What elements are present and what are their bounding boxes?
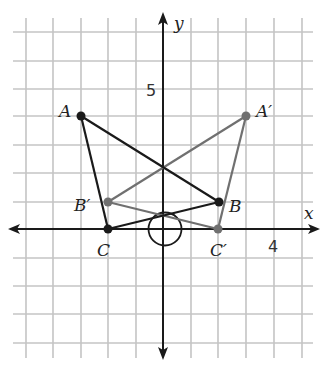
point-a-prime xyxy=(242,112,251,121)
point-c xyxy=(104,225,113,234)
point-c-prime xyxy=(214,225,223,234)
coordinate-plane-figure: y x 5 4 A B C A′ B′ C′ xyxy=(0,0,325,370)
point-a xyxy=(77,112,86,121)
x-tick-label-4: 4 xyxy=(268,237,278,256)
point-b xyxy=(215,198,224,207)
y-axis-label: y xyxy=(173,13,184,33)
label-c-prime: C′ xyxy=(210,240,227,260)
point-b-prime xyxy=(104,198,113,207)
x-axis-label: x xyxy=(304,203,314,223)
y-tick-label-5: 5 xyxy=(146,81,156,100)
label-b: B xyxy=(228,196,242,216)
label-b-prime: B′ xyxy=(73,195,90,215)
label-a-prime: A′ xyxy=(254,101,272,121)
label-c: C xyxy=(97,240,110,260)
label-a: A xyxy=(57,101,71,121)
